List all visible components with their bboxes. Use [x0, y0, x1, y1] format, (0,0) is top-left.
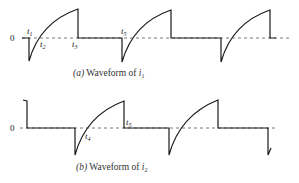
- time-label-t5-a: t5: [121, 26, 127, 37]
- time-label-t5-b: t5: [126, 117, 132, 128]
- panel-b: 0 t4 t5 (b) Waveform of i2: [10, 100, 276, 173]
- time-label-t3: t3: [72, 39, 78, 50]
- zero-label-b: 0: [10, 123, 15, 133]
- time-label-t4: t4: [85, 131, 91, 142]
- caption-b: (b) Waveform of i2: [76, 162, 147, 173]
- panel-a: 0 t1 t2 t3 t5 (a) Waveform of i1: [10, 9, 290, 79]
- waveform-i1: [22, 9, 276, 62]
- zero-label-a: 0: [10, 33, 15, 43]
- waveform-diagram: 0 t1 t2 t3 t5 (a) Waveform of i1 0 t4 t5…: [0, 0, 299, 183]
- time-label-t1: t1: [27, 26, 33, 37]
- time-label-t2: t2: [40, 39, 46, 50]
- caption-a: (a) Waveform of i1: [73, 68, 144, 79]
- waveform-i2: [23, 100, 271, 155]
